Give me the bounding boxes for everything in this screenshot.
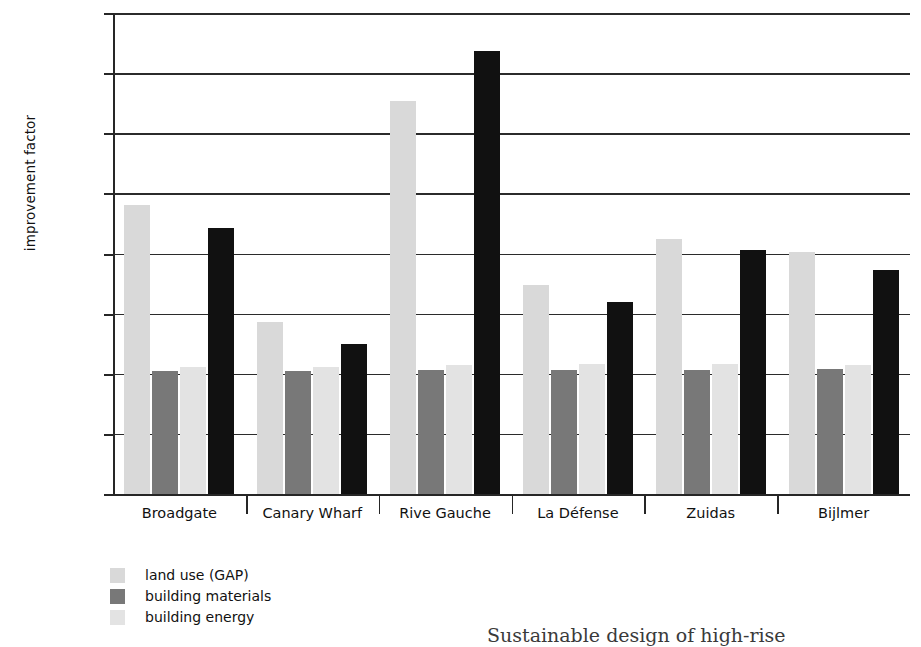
y-tick-mark: [104, 193, 114, 195]
gridline: [113, 133, 910, 135]
chart-legend: land use (GAP)building materialsbuilding…: [110, 565, 271, 628]
y-tick-mark: [104, 314, 114, 316]
y-axis-title: improvement factor: [22, 83, 38, 283]
x-category-label: La Défense: [512, 505, 645, 521]
legend-swatch: [110, 589, 125, 604]
x-category-label: Bijlmer: [777, 505, 910, 521]
bar: [285, 371, 311, 494]
y-tick-mark: [104, 374, 114, 376]
bar: [817, 369, 843, 494]
bar: [789, 252, 815, 494]
bar: [845, 365, 871, 494]
bar: [208, 228, 234, 494]
bar: [873, 270, 899, 494]
legend-item: building energy: [110, 607, 271, 627]
bar: [474, 51, 500, 494]
bar: [579, 364, 605, 494]
legend-swatch: [110, 610, 125, 625]
legend-item: land use (GAP): [110, 565, 271, 585]
bar: [257, 322, 283, 494]
bar-chart-figure: improvement factor 0,000,501,001,502,002…: [0, 0, 921, 647]
x-category-label: Rive Gauche: [379, 505, 512, 521]
y-tick-mark: [104, 13, 114, 15]
y-tick-mark: [104, 254, 114, 256]
legend-swatch: [110, 568, 125, 583]
page-caption: Sustainable design of high-rise: [487, 624, 786, 646]
legend-item: building materials: [110, 586, 271, 606]
y-tick-mark: [104, 494, 114, 496]
bar: [341, 344, 367, 494]
bar: [712, 364, 738, 494]
x-category-label: Broadgate: [113, 505, 246, 521]
gridline: [113, 13, 910, 15]
x-category-label: Canary Wharf: [246, 505, 379, 521]
plot-area: [113, 13, 910, 495]
legend-label: building energy: [145, 609, 254, 625]
bar: [551, 370, 577, 494]
bar: [446, 365, 472, 494]
y-tick-mark: [104, 133, 114, 135]
legend-label: land use (GAP): [145, 567, 249, 583]
bar: [313, 367, 339, 494]
x-category-label: Zuidas: [644, 505, 777, 521]
bar: [124, 205, 150, 494]
gridline: [113, 73, 910, 75]
gridline: [113, 193, 910, 195]
bar: [607, 302, 633, 494]
bar: [523, 285, 549, 494]
bar: [656, 239, 682, 494]
bar: [180, 367, 206, 494]
bar: [152, 371, 178, 494]
bar: [684, 370, 710, 494]
bar: [740, 250, 766, 494]
legend-label: building materials: [145, 588, 271, 604]
bar: [418, 370, 444, 494]
y-tick-mark: [104, 434, 114, 436]
y-tick-mark: [104, 73, 114, 75]
bar: [390, 101, 416, 494]
